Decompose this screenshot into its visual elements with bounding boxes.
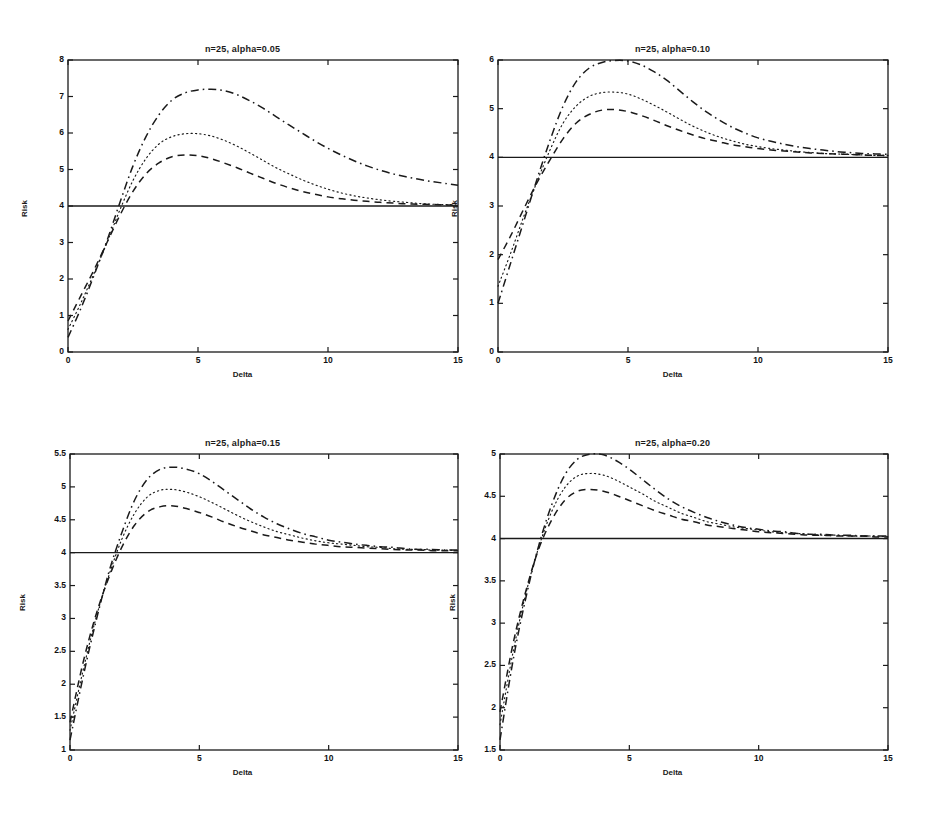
plot-canvas <box>497 59 889 353</box>
y-tick-label: 3 <box>26 238 64 247</box>
y-tick-label: 4.5 <box>28 515 66 524</box>
series-upper-dashdot <box>70 467 458 740</box>
plot-title: n=25, alpha=0.05 <box>20 44 465 54</box>
plot-panel-alpha-0-10: n=25, alpha=0.10 Risk Delta 012345605101… <box>450 44 895 389</box>
y-tick-label: 5 <box>28 482 66 491</box>
plot-canvas <box>69 453 459 751</box>
y-tick-label: 0 <box>26 347 64 356</box>
plot-canvas <box>67 59 459 353</box>
y-tick-label: 2 <box>458 703 496 712</box>
x-axis-label: Delta <box>20 768 465 777</box>
y-tick-label: 3 <box>458 618 496 627</box>
series-upper-dashdot <box>500 454 888 740</box>
x-tick-label: 0 <box>478 356 518 365</box>
series-lower-dashed <box>498 109 888 259</box>
y-tick-label: 5 <box>458 449 496 458</box>
plot-area <box>498 60 888 352</box>
y-tick-label: 1.5 <box>28 712 66 721</box>
x-tick-label: 15 <box>868 754 908 763</box>
plot-panel-alpha-0-20: n=25, alpha=0.20 Risk Delta 1.522.533.54… <box>450 438 895 788</box>
series-middle-dotted <box>70 489 458 730</box>
series-middle-dotted <box>500 473 888 724</box>
series-lower-dashed <box>70 506 458 723</box>
y-tick-label: 2.5 <box>28 646 66 655</box>
y-tick-label: 1.5 <box>458 745 496 754</box>
x-tick-label: 5 <box>608 356 648 365</box>
series-lower-dashed <box>500 490 888 712</box>
y-tick-label: 8 <box>26 55 64 64</box>
x-tick-label: 15 <box>868 356 908 365</box>
x-axis-label: Delta <box>20 370 465 379</box>
y-tick-label: 5 <box>456 104 494 113</box>
x-tick-label: 5 <box>178 356 218 365</box>
plot-title: n=25, alpha=0.20 <box>450 438 895 448</box>
x-axis-label: Delta <box>450 768 895 777</box>
x-tick-label: 0 <box>480 754 520 763</box>
x-axis-label: Delta <box>450 370 895 379</box>
axes-box <box>498 60 888 352</box>
x-tick-label: 10 <box>738 356 778 365</box>
x-tick-label: 10 <box>308 356 348 365</box>
x-tick-label: 5 <box>179 754 219 763</box>
plot-area <box>500 454 888 750</box>
y-tick-label: 2 <box>456 250 494 259</box>
y-tick-label: 4 <box>458 534 496 543</box>
x-tick-label: 0 <box>50 754 90 763</box>
y-tick-label: 6 <box>26 128 64 137</box>
y-tick-label: 1 <box>456 298 494 307</box>
y-tick-label: 1 <box>28 745 66 754</box>
y-tick-label: 3.5 <box>458 576 496 585</box>
y-tick-label: 7 <box>26 92 64 101</box>
plot-area <box>70 454 458 750</box>
y-tick-label: 3 <box>28 613 66 622</box>
y-tick-label: 0 <box>456 347 494 356</box>
plot-canvas <box>499 453 889 751</box>
y-tick-label: 3 <box>456 201 494 210</box>
y-tick-label: 4 <box>26 201 64 210</box>
y-axis-label: Risk <box>448 594 457 611</box>
y-tick-label: 3.5 <box>28 581 66 590</box>
y-tick-label: 4 <box>456 152 494 161</box>
x-tick-label: 10 <box>739 754 779 763</box>
series-middle-dotted <box>68 133 458 329</box>
y-tick-label: 5 <box>26 165 64 174</box>
figure-canvas: n=25, alpha=0.05 Risk Delta 012345678051… <box>0 0 930 827</box>
y-tick-label: 2 <box>28 679 66 688</box>
x-tick-label: 5 <box>609 754 649 763</box>
y-tick-label: 4 <box>28 548 66 557</box>
y-tick-label: 2 <box>26 274 64 283</box>
y-tick-label: 4.5 <box>458 491 496 500</box>
y-tick-label: 5.5 <box>28 449 66 458</box>
x-tick-label: 10 <box>309 754 349 763</box>
plot-title: n=25, alpha=0.10 <box>450 44 895 54</box>
series-lower-dashed <box>68 155 458 321</box>
plot-panel-alpha-0-15: n=25, alpha=0.15 Risk Delta 11.522.533.5… <box>20 438 465 788</box>
y-tick-label: 2.5 <box>458 660 496 669</box>
series-upper-dashdot <box>68 89 458 337</box>
axes-box <box>70 454 458 750</box>
plot-panel-alpha-0-05: n=25, alpha=0.05 Risk Delta 012345678051… <box>20 44 465 389</box>
plot-area <box>68 60 458 352</box>
series-middle-dotted <box>498 92 888 286</box>
y-axis-label: Risk <box>18 594 27 611</box>
y-tick-label: 6 <box>456 55 494 64</box>
plot-title: n=25, alpha=0.15 <box>20 438 465 448</box>
x-tick-label: 0 <box>48 356 88 365</box>
y-tick-label: 1 <box>26 311 64 320</box>
series-upper-dashdot <box>498 60 888 303</box>
